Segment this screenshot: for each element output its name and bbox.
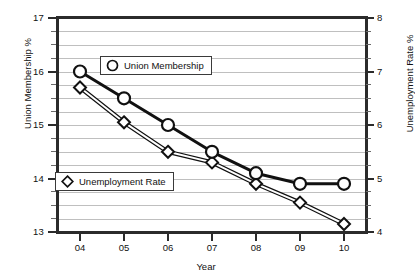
left-tick-minor xyxy=(51,98,56,99)
x-axis-title: Year xyxy=(0,261,412,272)
left-axis-tick-label: 13 xyxy=(33,227,44,237)
right-axis-tick-label: 5 xyxy=(377,174,382,184)
left-tick-major xyxy=(48,231,56,233)
right-axis-tick-label: 6 xyxy=(377,120,382,130)
right-tick-major xyxy=(366,17,374,19)
right-tick-minor xyxy=(366,84,371,85)
left-tick-minor xyxy=(51,84,56,85)
right-axis-tick-label: 4 xyxy=(377,227,382,237)
right-tick-minor xyxy=(366,44,371,45)
left-axis-tick-label: 15 xyxy=(33,120,44,130)
legend-union-label: Union Membership xyxy=(124,60,204,71)
legend-union-membership[interactable]: Union Membership xyxy=(100,56,212,75)
x-axis-tick-label: 04 xyxy=(65,243,95,253)
right-tick-major xyxy=(366,71,374,73)
plot-top-border xyxy=(58,16,366,19)
right-tick-major xyxy=(366,178,374,180)
gridline xyxy=(58,205,366,206)
left-tick-minor xyxy=(51,111,56,112)
x-axis-tick-label: 05 xyxy=(109,243,139,253)
x-tick xyxy=(123,233,125,241)
x-tick xyxy=(343,233,345,241)
right-tick-minor xyxy=(366,111,371,112)
left-axis-tick-label: 16 xyxy=(33,67,44,77)
right-tick-major xyxy=(366,124,374,126)
left-tick-minor xyxy=(51,218,56,219)
left-tick-minor xyxy=(51,191,56,192)
gridline xyxy=(58,138,366,139)
x-tick xyxy=(211,233,213,241)
right-tick-minor xyxy=(366,205,371,206)
right-tick-major xyxy=(366,231,374,233)
right-tick-minor xyxy=(366,138,371,139)
gridline xyxy=(58,85,366,86)
left-axis-spine xyxy=(56,16,59,234)
left-tick-major xyxy=(48,17,56,19)
right-axis-tick-label: 8 xyxy=(377,13,382,23)
left-tick-major xyxy=(48,124,56,126)
left-tick-minor xyxy=(51,205,56,206)
gridline xyxy=(58,125,366,126)
x-axis-tick-label: 07 xyxy=(197,243,227,253)
left-tick-minor xyxy=(51,31,56,32)
left-tick-minor xyxy=(51,44,56,45)
right-tick-minor xyxy=(366,58,371,59)
gridline xyxy=(58,98,366,99)
x-axis-tick-label: 06 xyxy=(153,243,183,253)
right-axis-title: Unemployment Rate % xyxy=(404,19,415,149)
left-axis-tick-label: 17 xyxy=(33,13,44,23)
left-tick-major xyxy=(48,71,56,73)
right-tick-minor xyxy=(366,98,371,99)
x-tick xyxy=(167,233,169,241)
left-tick-minor xyxy=(51,138,56,139)
x-axis-tick-label: 09 xyxy=(285,243,315,253)
right-tick-minor xyxy=(366,31,371,32)
legend-unemployment-rate[interactable]: Unemployment Rate xyxy=(55,172,174,191)
left-tick-minor xyxy=(51,58,56,59)
gridline xyxy=(58,31,366,32)
legend-unemployment-label: Unemployment Rate xyxy=(79,176,166,187)
right-axis-tick-label: 7 xyxy=(377,67,382,77)
x-axis-tick-label: 10 xyxy=(329,243,359,253)
x-tick xyxy=(299,233,301,241)
right-tick-minor xyxy=(366,165,371,166)
plot-area xyxy=(58,18,366,232)
x-axis-tick-label: 08 xyxy=(241,243,271,253)
left-tick-minor xyxy=(51,165,56,166)
left-axis-title: Union Membership % xyxy=(22,19,33,149)
right-tick-minor xyxy=(366,151,371,152)
gridline xyxy=(58,45,366,46)
diamond-marker-icon xyxy=(61,175,74,188)
gridline xyxy=(58,112,366,113)
gridline xyxy=(58,165,366,166)
right-tick-minor xyxy=(366,191,371,192)
left-axis-tick-label: 14 xyxy=(33,174,44,184)
x-tick xyxy=(79,233,81,241)
circle-marker-icon xyxy=(106,59,119,72)
x-tick xyxy=(255,233,257,241)
gridline xyxy=(58,152,366,153)
gridline xyxy=(58,219,366,220)
right-tick-minor xyxy=(366,218,371,219)
gridline xyxy=(58,192,366,193)
left-tick-minor xyxy=(51,151,56,152)
